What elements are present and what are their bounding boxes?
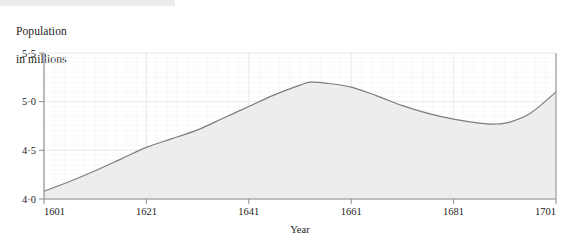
- x-tick-label: 1701: [535, 206, 556, 217]
- x-tick-label: 1641: [238, 206, 259, 217]
- x-tick-label: 1601: [44, 206, 65, 217]
- x-tick-label: 1661: [341, 206, 362, 217]
- y-tick-label: 4·0: [22, 194, 36, 205]
- y-tick-label: 5·5: [22, 48, 36, 59]
- x-axis-ticks: 160116211641166116811701: [44, 199, 556, 217]
- population-area-chart: 4·04·55·05·5 160116211641166116811701 Ye…: [0, 0, 587, 241]
- x-tick-label: 1621: [136, 206, 157, 217]
- y-tick-label: 4·5: [22, 145, 36, 156]
- chart-page: Population in millions 4·04·55·05·5 1601…: [0, 0, 587, 241]
- chart-area: 4·04·55·05·5 160116211641166116811701 Ye…: [0, 0, 587, 241]
- x-axis-title: Year: [290, 224, 310, 235]
- y-tick-label: 5·0: [22, 96, 36, 107]
- x-tick-label: 1681: [443, 206, 464, 217]
- y-axis-ticks: 4·04·55·05·5: [22, 48, 44, 205]
